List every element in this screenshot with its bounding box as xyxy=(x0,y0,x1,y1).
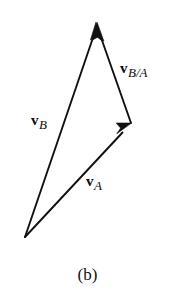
vector-v-b xyxy=(25,22,102,237)
vector-label-v-a-symbol: v xyxy=(86,173,94,189)
vector-label-v-b-symbol: v xyxy=(31,112,39,128)
vector-v-b-shaft xyxy=(25,33,95,237)
vector-v-a-arrowhead xyxy=(116,123,131,134)
vector-label-v-b-over-a-subscript: B/A xyxy=(128,65,148,80)
vector-v-a xyxy=(25,123,132,237)
vector-label-v-b-over-a: vB/A xyxy=(120,60,147,76)
vector-label-v-b: vB xyxy=(31,112,46,128)
vector-label-v-b-over-a-symbol: v xyxy=(120,60,128,76)
vector-v-a-shaft xyxy=(25,133,123,238)
figure-caption: (b) xyxy=(0,265,175,285)
vector-label-v-a: vA xyxy=(86,173,101,189)
vector-v-b-over-a-shaft xyxy=(100,34,131,124)
vector-diagram-canvas xyxy=(0,0,175,299)
vector-label-v-a-subscript: A xyxy=(94,178,102,193)
vector-diagram-figure: vB vA vB/A (b) xyxy=(0,0,175,299)
vector-label-v-b-subscript: B xyxy=(39,117,47,132)
